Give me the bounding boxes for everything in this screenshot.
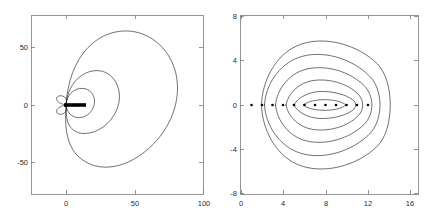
left-panel: 0 50 100 50 0 -50: [17, 15, 210, 208]
right-panel: 0 4 8 12 16: [230, 12, 418, 208]
left-panel-streamlines: [57, 31, 178, 167]
marker-dot: [303, 104, 306, 107]
streamline-4-cardioid-large: [66, 31, 178, 167]
left-panel-x-ticks: 0 50 100: [64, 15, 210, 208]
left-ytick-0: 0: [24, 101, 28, 110]
plot-panels: 0 50 100 50 0 -50: [0, 0, 431, 223]
marker-dot: [250, 104, 253, 107]
marker-dot: [345, 104, 348, 107]
right-panel-markers: [250, 104, 369, 107]
marker-dot: [356, 104, 359, 107]
right-ytick-8: 8: [233, 12, 237, 21]
marker-dot: [261, 104, 264, 107]
left-panel-y-ticks: 50 0 -50: [17, 43, 203, 167]
marker-dot: [324, 104, 327, 107]
left-xtick-100: 100: [198, 199, 211, 208]
marker-dot: [293, 104, 296, 107]
marker-dot: [314, 104, 317, 107]
right-ytick-neg8: -8: [230, 189, 237, 198]
right-ytick-4: 4: [233, 56, 237, 65]
left-xtick-50: 50: [131, 199, 139, 208]
marker-dot: [335, 104, 338, 107]
marker-dot: [271, 104, 274, 107]
right-ytick-neg4: -4: [230, 145, 237, 154]
figure-container: 0 50 100 50 0 -50: [0, 0, 431, 223]
streamline-3-cardioid-small: [66, 71, 119, 134]
right-xtick-4: 4: [281, 199, 285, 208]
right-panel-axes: [240, 15, 418, 194]
streamline-2-small-circle: [66, 88, 95, 117]
right-xtick-12: 12: [364, 199, 372, 208]
right-xtick-0: 0: [239, 199, 243, 208]
left-ytick-50: 50: [20, 43, 28, 52]
right-xtick-8: 8: [324, 199, 328, 208]
marker-dot: [282, 104, 285, 107]
marker-dot: [367, 104, 370, 107]
right-xtick-16: 16: [406, 199, 414, 208]
right-ytick-0: 0: [233, 101, 237, 110]
left-ytick-neg50: -50: [17, 158, 28, 167]
right-panel-y-ticks: 8 4 0 -4 -8: [230, 12, 418, 198]
left-xtick-0: 0: [64, 199, 68, 208]
left-panel-axes: [31, 15, 203, 194]
